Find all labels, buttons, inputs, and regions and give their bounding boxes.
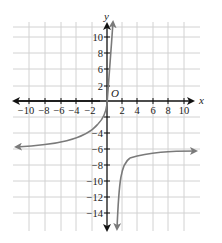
svg-text:−2: −2 [84, 105, 95, 116]
svg-text:8: 8 [98, 48, 103, 59]
svg-text:−8: −8 [38, 105, 49, 116]
y-tick-labels: 10 8 6 2 −4 −6 −8 −10 −12 −14 [87, 32, 104, 219]
svg-text:−8: −8 [92, 160, 103, 171]
svg-text:2: 2 [119, 105, 124, 116]
svg-text:2: 2 [98, 81, 103, 92]
svg-text:−6: −6 [92, 144, 103, 155]
svg-text:−4: −4 [92, 128, 104, 139]
left-branch [16, 124, 98, 147]
svg-text:6: 6 [98, 64, 103, 75]
svg-text:−10: −10 [87, 176, 103, 187]
svg-text:−14: −14 [87, 208, 104, 219]
right-branch [130, 151, 196, 158]
svg-text:−4: −4 [68, 105, 80, 116]
y-axis-label: y [103, 10, 109, 22]
origin-label: O [111, 87, 119, 99]
right-branch-down [117, 158, 130, 229]
svg-text:−6: −6 [53, 105, 64, 116]
x-axis-label: x [198, 94, 204, 106]
axes [14, 24, 193, 230]
hyperbola-graph: −10 −8 −6 −4 −2 2 4 6 8 10 10 8 6 2 −4 −… [0, 0, 222, 243]
svg-text:10: 10 [179, 105, 190, 116]
svg-text:8: 8 [165, 105, 170, 116]
svg-text:10: 10 [93, 32, 104, 43]
svg-text:−10: −10 [18, 105, 34, 116]
svg-text:−12: −12 [87, 192, 103, 203]
svg-text:6: 6 [150, 105, 155, 116]
svg-text:4: 4 [134, 105, 140, 116]
